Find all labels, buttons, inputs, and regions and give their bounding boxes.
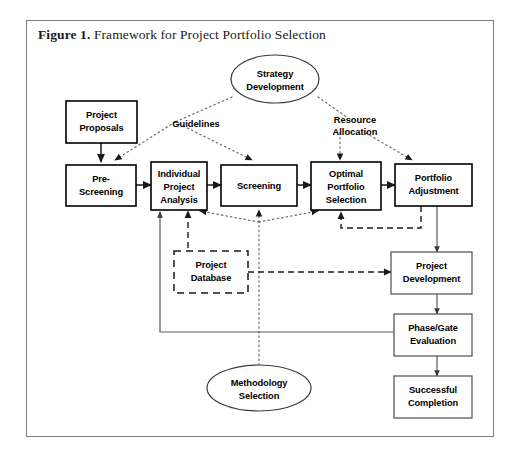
node-individual-project-analysis-line2: Project bbox=[164, 182, 195, 192]
node-methodology-selection-line2: Selection bbox=[239, 391, 280, 401]
node-portfolio-adjustment-line1: Portfolio bbox=[415, 173, 453, 183]
node-methodology-selection[interactable]: Methodology Selection bbox=[207, 365, 311, 411]
node-project-proposals[interactable]: Project Proposals bbox=[66, 101, 137, 143]
node-project-development-line2: Development bbox=[403, 274, 460, 284]
framework-diagram: Project Proposals Strategy Development G… bbox=[0, 0, 517, 467]
node-strategy-development-line1: Strategy bbox=[257, 69, 294, 79]
node-project-proposals-line2: Proposals bbox=[79, 123, 123, 133]
node-strategy-development[interactable]: Strategy Development bbox=[231, 55, 319, 103]
node-screening[interactable]: Screening bbox=[221, 165, 297, 206]
node-phase-gate-evaluation-line2: Evaluation bbox=[410, 336, 456, 346]
node-project-database[interactable]: Project Database bbox=[174, 251, 248, 293]
node-pre-screening[interactable]: Pre- Screening bbox=[66, 165, 136, 206]
node-optimal-portfolio-selection[interactable]: Optimal Portfolio Selection bbox=[311, 162, 381, 210]
node-portfolio-adjustment-line2: Adjustment bbox=[408, 186, 458, 196]
node-project-development-line1: Project bbox=[416, 261, 447, 271]
node-pre-screening-line2: Screening bbox=[79, 187, 123, 197]
node-individual-project-analysis-line1: Individual bbox=[158, 169, 200, 179]
annotation-resource-allocation: Resource Allocation bbox=[333, 115, 378, 137]
node-methodology-selection-line1: Methodology bbox=[231, 378, 289, 388]
node-successful-completion[interactable]: Successful Completion bbox=[394, 376, 472, 418]
node-optimal-portfolio-selection-line2: Portfolio bbox=[327, 182, 365, 192]
node-project-development[interactable]: Project Development bbox=[391, 252, 472, 294]
node-project-database-line1: Project bbox=[196, 260, 227, 270]
figure-root: Figure 1. Framework for Project Portfoli… bbox=[0, 0, 517, 467]
node-individual-project-analysis-line3: Analysis bbox=[160, 195, 197, 205]
node-phase-gate-evaluation-line1: Phase/Gate bbox=[408, 323, 458, 333]
node-project-database-line2: Database bbox=[191, 273, 232, 283]
annotation-resource-allocation-line2: Allocation bbox=[333, 127, 378, 137]
node-strategy-development-line2: Development bbox=[246, 82, 303, 92]
node-optimal-portfolio-selection-line1: Optimal bbox=[329, 169, 363, 179]
annotation-resource-allocation-line1: Resource bbox=[334, 115, 376, 125]
node-successful-completion-line2: Completion bbox=[408, 398, 459, 408]
node-screening-line1: Screening bbox=[237, 181, 281, 191]
node-phase-gate-evaluation[interactable]: Phase/Gate Evaluation bbox=[394, 314, 472, 356]
node-individual-project-analysis[interactable]: Individual Project Analysis bbox=[151, 162, 207, 210]
node-successful-completion-line1: Successful bbox=[409, 385, 457, 395]
annotation-guidelines: Guidelines bbox=[172, 119, 220, 129]
node-portfolio-adjustment[interactable]: Portfolio Adjustment bbox=[395, 164, 472, 206]
node-optimal-portfolio-selection-line3: Selection bbox=[326, 195, 367, 205]
node-project-proposals-line1: Project bbox=[86, 110, 117, 120]
node-pre-screening-line1: Pre- bbox=[92, 174, 110, 184]
